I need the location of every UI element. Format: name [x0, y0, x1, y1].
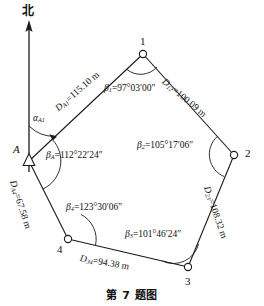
side-A4-subscript: A4 — [10, 187, 19, 196]
traverse-figure: 北 A 1 2 3 4 αA1 DA1=115.10 m D12=100.09 … — [0, 0, 264, 306]
angle-label-beta3: β3=101°46′24″ — [125, 230, 181, 240]
betaA-value: 112°22′24″ — [60, 150, 103, 160]
angle-arc-betaA — [43, 140, 61, 190]
angle-arc-beta1 — [127, 67, 157, 74]
vertex-marker-A — [23, 154, 35, 166]
vertex-marker-4 — [64, 235, 71, 242]
side-34-unit: m — [121, 260, 130, 271]
angle-arc-beta4 — [81, 214, 96, 245]
traverse-drawing — [0, 0, 264, 306]
north-label: 北 — [22, 5, 34, 17]
vertex-label-4: 4 — [57, 244, 63, 255]
angle-label-beta2: β2=105°17′06″ — [137, 141, 193, 151]
vertex-marker-1 — [139, 50, 146, 57]
beta4-subscript: 4 — [71, 205, 74, 212]
azimuth-subscript: A1 — [38, 116, 45, 123]
beta3-value: 101°46′24″ — [138, 229, 181, 239]
azimuth-label: αA1 — [33, 114, 45, 124]
vertex-marker-3 — [184, 263, 191, 270]
angle-label-beta1: β1=97°03′00″ — [104, 84, 156, 94]
side-23-subscript: 23 — [204, 193, 213, 201]
angle-label-betaA: βA=112°22′24″ — [46, 151, 103, 161]
side-A4-line — [29, 161, 68, 239]
side-34-subscript: 34 — [86, 258, 93, 266]
vertex-marker-2 — [230, 151, 237, 158]
figure-caption: 第 7 题图 — [0, 286, 264, 302]
betaA-subscript: A — [51, 153, 55, 160]
beta1-value: 97°03′00″ — [117, 83, 155, 93]
azimuth-arc — [29, 126, 56, 136]
vertex-label-1: 1 — [140, 36, 146, 47]
angle-label-beta4: β4=123°30′06″ — [66, 203, 122, 213]
beta3-subscript: 3 — [130, 232, 133, 239]
azimuth-arrowhead-icon — [49, 134, 57, 140]
beta2-subscript: 2 — [142, 143, 145, 150]
beta4-value: 123°30′06″ — [79, 202, 122, 212]
angle-arc-beta2 — [209, 137, 224, 177]
vertex-label-A: A — [13, 144, 20, 155]
side-A1-line — [29, 54, 143, 161]
beta1-subscript: 1 — [109, 86, 112, 93]
beta2-value: 105°17′06″ — [150, 140, 193, 150]
vertex-label-2: 2 — [245, 148, 251, 159]
